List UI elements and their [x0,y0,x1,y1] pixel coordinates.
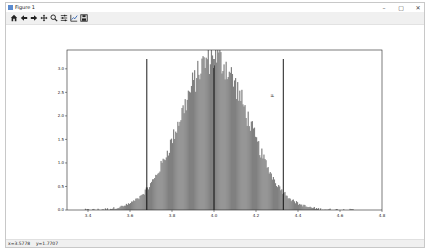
histogram-bar [219,50,220,210]
histogram-bar [290,199,291,210]
figure-canvas[interactable]: μ3.43.63.84.04.24.44.64.80.00.51.01.52.0… [6,26,424,222]
histogram-bar [303,205,304,210]
histogram-bar [197,61,198,210]
histogram-bar [175,132,176,210]
figure-window: Figure 1 – ▢ ✕ μ3. [5,2,425,248]
histogram-bar [127,205,128,210]
histogram-bar [302,206,303,210]
save-button[interactable] [80,14,88,23]
histogram-bar [150,183,151,210]
histogram-bar [199,79,200,210]
arrow-left-icon [20,14,28,22]
histogram-bar [313,208,314,210]
histogram-bar [299,204,300,210]
home-button[interactable] [10,14,18,23]
histogram-bar [211,50,212,210]
minimize-button[interactable]: – [380,3,388,12]
histogram-bar [288,198,289,210]
histogram-bar [271,173,272,210]
x-tick-label: 3.8 [169,213,176,218]
histogram-bar [263,155,264,210]
navigation-toolbar [6,12,424,25]
close-button[interactable]: ✕ [414,3,422,12]
histogram-bar [168,156,169,210]
histogram-bar [238,101,239,210]
histogram-bar [202,56,203,210]
histogram-bar [311,207,312,210]
histogram-bar [284,192,285,210]
histogram-bar [291,201,292,210]
histogram-bar [280,190,281,210]
histogram-bar [246,118,247,210]
histogram-bar [131,202,132,210]
move-icon [40,14,48,22]
histogram-bar [314,207,315,210]
histogram-bar [241,90,242,210]
edit-axis-button[interactable] [70,14,78,23]
window-title: Figure 1 [15,4,35,11]
histogram-bar [151,182,152,210]
histogram-bar [152,179,153,210]
floppy-disk-icon [80,14,88,22]
histogram-bar [243,106,244,210]
histogram-bar [123,206,124,210]
histogram-bar [139,196,140,210]
back-button[interactable] [20,14,28,23]
histogram-bar [254,128,255,210]
arrow-right-icon [30,14,38,22]
histogram-bar [272,180,273,210]
histogram-bar [222,71,223,210]
histogram-bar [206,58,207,210]
histogram-bar [267,168,268,210]
annotation-label: μ [269,94,274,97]
histogram-bar [229,72,230,210]
maximize-button[interactable]: ▢ [397,3,405,12]
histogram-bar [249,126,250,210]
histogram-bar [230,73,231,210]
histogram-bar [265,160,266,210]
x-tick-label: 4.6 [337,213,344,218]
histogram-bar [167,151,168,210]
histogram-bar [194,70,195,210]
histogram-bar [307,207,308,210]
histogram-bar [297,202,298,210]
zoom-button[interactable] [50,14,58,23]
histogram-bar [165,160,166,210]
histogram-bar [228,77,229,210]
histogram-bar [261,149,262,210]
histogram-bar [191,86,192,210]
histogram-bar [220,52,221,210]
histogram-bar [173,129,174,210]
histogram-bar [305,207,306,210]
histogram-bar [278,185,279,210]
histogram-bar [286,196,287,210]
histogram-bar [204,57,205,210]
y-tick-label: 1.5 [58,137,65,142]
histogram-bar [250,131,251,210]
histogram-bar [128,203,129,210]
histogram-bar [154,178,155,210]
histogram-bar [232,74,233,210]
histogram-bar [270,172,271,210]
histogram-bar [176,133,177,210]
subplots-button[interactable] [60,14,68,23]
histogram-bar [196,78,197,210]
histogram-bar [296,201,297,210]
sliders-icon [60,14,68,22]
histogram-bar [218,52,219,210]
pan-button[interactable] [40,14,48,23]
histogram-chart[interactable]: μ3.43.63.84.04.24.44.64.80.00.51.01.52.0… [6,26,424,222]
y-tick-label: 1.0 [58,160,65,165]
histogram-bar [255,137,256,210]
histogram-bar [178,126,179,210]
histogram-bar [253,128,254,210]
histogram-bar [277,187,278,210]
histogram-bar [259,155,260,210]
magnifier-icon [50,14,58,22]
histogram-bar [185,99,186,210]
histogram-bar [145,190,146,210]
histogram-bar [125,206,126,210]
histogram-bar [120,207,121,210]
forward-button[interactable] [30,14,38,23]
line-chart-icon [70,14,78,22]
